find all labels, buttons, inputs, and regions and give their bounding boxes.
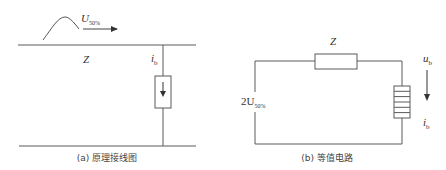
caption-a: (a) 原理接线图 [77,152,137,163]
arrow-head-icon [424,94,430,101]
source-voltage-label: 2U50% [241,95,265,109]
panel-a-wiring-diagram: U50% Z ib (a) 原理接线图 [18,12,196,163]
arrester-current-label: ib [151,52,158,67]
surge-wave-icon [43,17,79,40]
impedance-resistor-icon [315,54,357,69]
arrester-voltage-label: ub [423,52,433,67]
diagram-canvas: U50% Z ib (a) 原理接线图 Z 2U50% ub [0,0,446,170]
panel-b-equivalent-circuit: Z 2U50% ub ib (b) 等值电路 [241,35,433,163]
impedance-label: Z [330,35,337,47]
line-impedance-label: Z [83,53,90,65]
wave-voltage-label: U50% [81,12,100,26]
caption-b: (b) 等值电路 [301,152,353,163]
nonlinear-resistor-icon [394,86,410,118]
arrester-current-label: ib [423,116,430,131]
